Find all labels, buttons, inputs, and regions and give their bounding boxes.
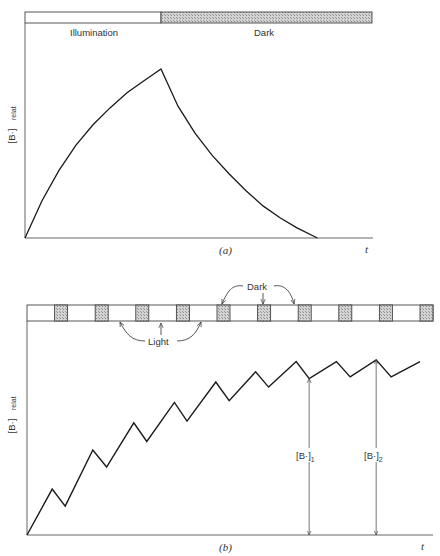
x-axis-label-a: t xyxy=(365,243,369,255)
dark-period-segment xyxy=(420,305,433,321)
illumination-label: Illumination xyxy=(70,27,118,38)
dark-arrow-left xyxy=(222,286,243,304)
phase-bar-a xyxy=(25,12,372,23)
dark-period-segment xyxy=(176,305,189,321)
panel-b: Dark Light [B·] relat [B·]1 [B·]2 (b) t xyxy=(6,281,433,554)
dark-period-segment xyxy=(258,305,271,321)
curve-a xyxy=(25,69,317,238)
panel-a: Illumination Dark [B·] relat (a) t xyxy=(6,12,373,257)
dark-period-segment xyxy=(298,305,311,321)
y-label-main: [B·] xyxy=(6,129,17,144)
figure: Illumination Dark [B·] relat (a) t Dark … xyxy=(0,0,440,556)
dark-period-segment xyxy=(339,305,352,321)
light-annotation-label: Light xyxy=(148,336,169,347)
y-axis-label-b: [B·] relat xyxy=(6,396,17,433)
y-label-main: [B·] xyxy=(6,419,17,434)
dark-period-segment xyxy=(217,305,230,321)
x-axis-label-b: t xyxy=(421,540,425,552)
dark-arrow-right xyxy=(274,286,294,304)
dark-period-segment xyxy=(95,305,108,321)
dark-segment xyxy=(161,12,372,23)
curve-b xyxy=(27,360,420,535)
light-arrow-left xyxy=(120,322,145,341)
dark-label: Dark xyxy=(254,27,274,38)
dark-annotation-label: Dark xyxy=(247,281,267,292)
y-label-sub: relat xyxy=(10,106,17,120)
dark-period-segment xyxy=(55,305,68,321)
caption-b: (b) xyxy=(219,541,232,554)
y-axis-label-a: [B·] relat xyxy=(6,106,17,143)
illumination-segment xyxy=(25,12,161,23)
caption-a: (a) xyxy=(219,244,232,257)
dark-period-segment xyxy=(136,305,149,321)
light-arrow-right xyxy=(177,322,201,341)
dark-period-segment xyxy=(379,305,392,321)
phase-bar-b xyxy=(27,305,433,321)
y-label-sub: relat xyxy=(10,396,17,410)
